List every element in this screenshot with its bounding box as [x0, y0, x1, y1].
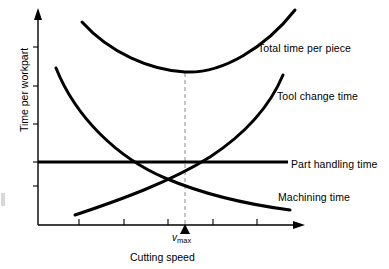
- x-axis-arrowhead: [293, 221, 305, 229]
- x-axis-ticks: [79, 219, 257, 225]
- page-edge-artifact: [1, 193, 5, 206]
- y-axis-ticks: [33, 47, 38, 186]
- y-axis-title: Time per workpart: [18, 48, 30, 132]
- vmax-subscript: max: [177, 236, 191, 245]
- series-label-total-time-per-piece: Total time per piece: [258, 42, 351, 54]
- series-line-tool-change-time: [75, 75, 283, 215]
- chart-canvas: [0, 0, 389, 269]
- y-axis-title-wrapper: Time per workpart: [14, 25, 30, 155]
- series-label-machining-time: Machining time: [278, 191, 350, 203]
- series-label-part-handling-time: Part handling time: [291, 158, 377, 170]
- vmax-annotation-label: vmax: [172, 232, 191, 245]
- x-axis-title: Cutting speed: [130, 251, 195, 263]
- series-line-machining-time: [56, 68, 290, 210]
- y-axis-arrowhead: [34, 8, 42, 20]
- cutting-speed-time-chart: Total time per piece Tool change time Pa…: [0, 0, 389, 269]
- series-label-tool-change-time: Tool change time: [277, 90, 358, 102]
